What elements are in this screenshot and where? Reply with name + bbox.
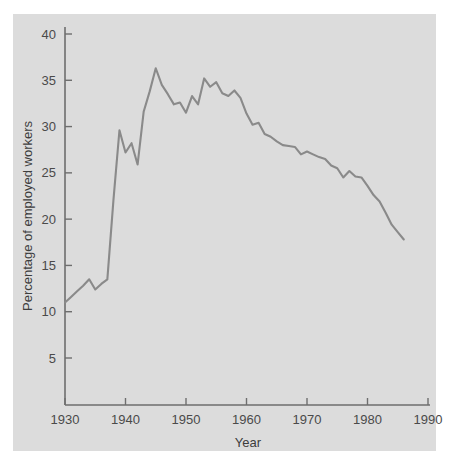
y-tick-label: 20 bbox=[42, 212, 56, 227]
y-axis-ticks: 510152025303540 bbox=[42, 27, 72, 366]
y-axis-group: 510152025303540 Percentage of employed w… bbox=[20, 27, 72, 406]
x-tick-label: 1930 bbox=[51, 412, 80, 427]
x-tick-label: 1940 bbox=[111, 412, 140, 427]
y-axis-title: Percentage of employed workers bbox=[20, 120, 35, 311]
line-chart: 510152025303540 Percentage of employed w… bbox=[0, 0, 450, 467]
x-axis-title: Year bbox=[235, 435, 262, 450]
x-tick-label: 1960 bbox=[232, 412, 261, 427]
y-tick-label: 10 bbox=[42, 304, 56, 319]
x-tick-label: 1950 bbox=[172, 412, 201, 427]
y-tick-label: 25 bbox=[42, 165, 56, 180]
x-axis-group: 1930194019501960197019801990 Year bbox=[51, 398, 443, 450]
y-tick-label: 30 bbox=[42, 119, 56, 134]
y-tick-label: 35 bbox=[42, 73, 56, 88]
x-tick-label: 1990 bbox=[414, 412, 443, 427]
x-axis-ticks: 1930194019501960197019801990 bbox=[51, 398, 443, 427]
data-series-line bbox=[65, 68, 404, 302]
x-tick-label: 1980 bbox=[353, 412, 382, 427]
x-tick-label: 1970 bbox=[293, 412, 322, 427]
y-tick-label: 40 bbox=[42, 27, 56, 42]
y-tick-label: 5 bbox=[49, 351, 56, 366]
y-tick-label: 15 bbox=[42, 258, 56, 273]
